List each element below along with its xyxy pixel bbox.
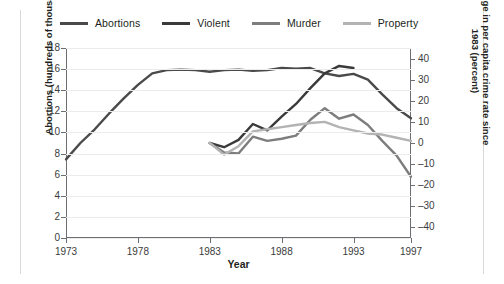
x-axis-tick-label: 1983 — [199, 246, 221, 257]
left-tick-mark — [61, 48, 66, 49]
right-axis-tick-label: 10 — [418, 117, 448, 127]
legend-label: Violent — [197, 17, 230, 29]
legend-label: Abortions — [95, 17, 140, 29]
x-axis-tick-label: 1973 — [55, 246, 77, 257]
gridline — [66, 238, 411, 239]
chart-legend: AbortionsViolentMurderProperty — [60, 14, 450, 32]
x-tick-mark — [411, 238, 412, 243]
x-axis-title: Year — [66, 258, 411, 270]
chart-figure: AbortionsViolentMurderProperty 181614121… — [0, 0, 504, 284]
right-axis-tick-label: –10 — [418, 159, 448, 169]
right-axis-title: Change in per capita crime rate since 19… — [466, 0, 492, 156]
left-axis-tick-label: 8 — [34, 149, 60, 159]
left-axis-tick-label: 2 — [34, 212, 60, 222]
x-axis-tick-label: 1978 — [127, 246, 149, 257]
x-axis-tick-label: 1988 — [271, 246, 293, 257]
x-axis-tick-label: 1993 — [342, 246, 364, 257]
legend-swatch-icon — [252, 22, 280, 25]
right-axis-tick-label: –20 — [418, 180, 448, 190]
series-line-violent — [210, 66, 354, 147]
right-axis-tick-label: –40 — [418, 222, 448, 232]
left-tick-mark — [61, 175, 66, 176]
right-tick-mark — [410, 143, 415, 144]
right-tick-mark — [410, 185, 415, 186]
right-tick-mark — [410, 227, 415, 228]
right-axis-tick-label: 0 — [418, 138, 448, 148]
legend-label: Murder — [287, 17, 321, 29]
legend-item-murder: Murder — [252, 17, 321, 29]
left-tick-mark — [61, 111, 66, 112]
left-tick-mark — [61, 217, 66, 218]
gridline — [66, 90, 411, 91]
left-tick-mark — [61, 196, 66, 197]
legend-item-abortions: Abortions — [60, 17, 140, 29]
legend-item-violent: Violent — [162, 17, 230, 29]
right-tick-mark — [410, 59, 415, 60]
gridline — [66, 217, 411, 218]
right-tick-mark — [410, 101, 415, 102]
gridline — [66, 69, 411, 70]
legend-swatch-icon — [343, 22, 371, 25]
right-tick-mark — [410, 206, 415, 207]
right-tick-mark — [410, 122, 415, 123]
figure-left-border — [20, 10, 21, 274]
x-tick-mark — [354, 238, 355, 243]
left-tick-mark — [61, 69, 66, 70]
right-axis-tick-label: 40 — [418, 54, 448, 64]
series-line-murder — [210, 108, 411, 177]
left-axis-title: Abortions (hundreds of thousands) — [43, 0, 57, 150]
left-tick-mark — [61, 132, 66, 133]
gridline — [66, 132, 411, 133]
legend-item-property: Property — [343, 17, 418, 29]
left-axis-tick-label: 0 — [34, 233, 60, 243]
x-tick-mark — [138, 238, 139, 243]
right-tick-mark — [410, 80, 415, 81]
x-tick-mark — [66, 238, 67, 243]
gridline — [66, 196, 411, 197]
right-axis-tick-label: 20 — [418, 96, 448, 106]
gridline — [66, 111, 411, 112]
x-tick-mark — [282, 238, 283, 243]
gridline — [66, 154, 411, 155]
gridline — [66, 48, 411, 49]
legend-swatch-icon — [60, 22, 88, 25]
left-tick-mark — [61, 154, 66, 155]
plot-area: 181614121086420403020100–10–20–30–401973… — [66, 48, 411, 238]
x-tick-mark — [210, 238, 211, 243]
legend-label: Property — [378, 17, 418, 29]
gridline — [66, 175, 411, 176]
left-tick-mark — [61, 90, 66, 91]
left-axis-tick-label: 6 — [34, 170, 60, 180]
series-lines — [66, 48, 411, 238]
right-tick-mark — [410, 164, 415, 165]
legend-swatch-icon — [162, 22, 190, 25]
left-axis-tick-label: 4 — [34, 191, 60, 201]
right-axis-tick-label: 30 — [418, 75, 448, 85]
x-axis-tick-label: 1997 — [400, 246, 422, 257]
right-axis-tick-label: –30 — [418, 201, 448, 211]
